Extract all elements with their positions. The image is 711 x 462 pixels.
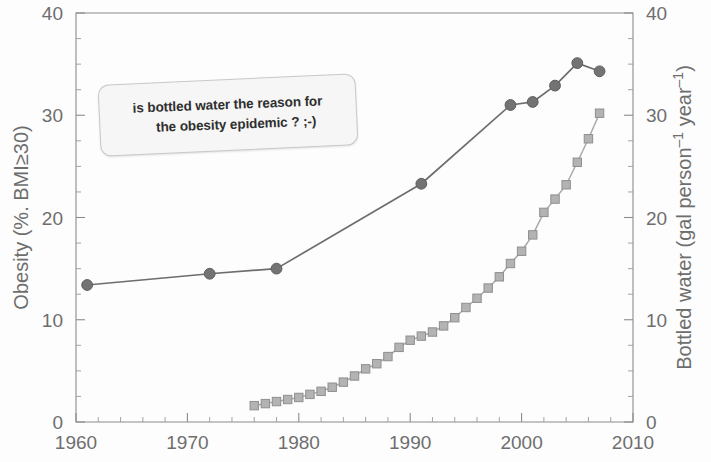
bottled-water-data-point [473,294,481,302]
bottled-water-data-point [317,387,325,395]
obesity-data-point [82,280,93,291]
bottled-water-data-point [417,332,425,340]
annotation-callout: is bottled water the reason for the obes… [97,73,358,157]
x-tick-label: 1980 [278,432,320,453]
y-axis-title: Obesity (%. BMI≥30) [10,125,32,309]
y-tick-label: 10 [42,310,63,331]
y2-tick-label: 10 [646,310,667,331]
y2-tick-label: 40 [646,3,667,24]
obesity-data-point [416,178,427,189]
bottled-water-data-point [406,336,414,344]
obesity-data-point [572,58,583,69]
y-tick-label: 30 [42,105,63,126]
obesity-data-point [505,100,516,111]
bottled-water-data-point [295,393,303,401]
y-tick-label: 20 [42,208,63,229]
bottled-water-data-point [428,328,436,336]
bottled-water-data-point [361,365,369,373]
obesity-data-point [271,263,282,274]
plot-area: 1960197019801990200020100102030400102030… [0,0,711,462]
x-tick-label: 1990 [389,432,431,453]
obesity-data-point [594,66,605,77]
bottled-water-data-point [573,158,581,166]
bottled-water-data-point [339,378,347,386]
y2-axis-title: Bottled water (gal person–1 year–1) [670,65,695,370]
x-tick-label: 2000 [500,432,542,453]
bottled-water-data-point [595,109,603,117]
y2-tick-label: 30 [646,105,667,126]
bottled-water-data-point [562,181,570,189]
y-tick-label: 0 [52,412,63,433]
annotation-text: is bottled water the reason for the obes… [124,92,331,139]
plot-frame [76,13,633,422]
bottled-water-data-point [306,390,314,398]
obesity-data-point [550,80,561,91]
bottled-water-data-point [451,314,459,322]
bottled-water-data-point [551,195,559,203]
bottled-water-data-point [484,284,492,292]
bottled-water-data-point [584,135,592,143]
bottled-water-data-point [495,273,503,281]
bottled-water-data-point [384,352,392,360]
bottled-water-line [254,113,599,405]
y2-tick-label: 0 [646,412,657,433]
axes-group [76,13,633,422]
y2-tick-label: 20 [646,208,667,229]
bottled-water-data-point [261,399,269,407]
chart-figure: 1960197019801990200020100102030400102030… [0,0,711,462]
bottled-water-data-point [395,343,403,351]
tick-marks-group [76,13,633,422]
bottled-water-data-point [529,231,537,239]
x-tick-label: 2010 [612,432,654,453]
bottled-water-data-point [272,397,280,405]
bottled-water-data-point [439,322,447,330]
bottled-water-data-point [283,395,291,403]
bottled-water-data-point [462,303,470,311]
obesity-data-point [204,268,215,279]
bottled-water-data-point [517,247,525,255]
bottled-water-data-point [350,372,358,380]
x-tick-label: 1970 [166,432,208,453]
bottled-water-data-point [328,383,336,391]
obesity-data-point [527,97,538,108]
tick-labels-group: 1960197019801990200020100102030400102030… [42,3,667,453]
bottled-water-data-point [250,401,258,409]
x-tick-label: 1960 [55,432,97,453]
y-tick-label: 40 [42,3,63,24]
bottled-water-data-point [506,259,514,267]
bottled-water-data-point [373,360,381,368]
series-bottled-water [250,109,604,410]
bottled-water-data-point [540,208,548,216]
